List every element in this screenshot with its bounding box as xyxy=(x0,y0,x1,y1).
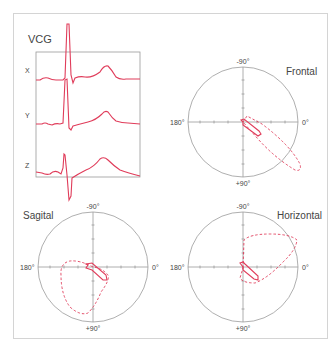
horizontal-top-label: -90° xyxy=(237,203,250,210)
horizontal-right-label: 0° xyxy=(302,264,309,271)
sagittal-bottom-label: +90° xyxy=(86,325,101,332)
frontal-loop-plot xyxy=(188,67,300,177)
sagittal-title: Sagital xyxy=(23,210,54,221)
frontal-right-label: 0° xyxy=(302,119,309,126)
horizontal-loop-plot xyxy=(188,212,298,322)
horizontal-title: Horizontal xyxy=(277,210,322,221)
sagittal-left-label: 180° xyxy=(20,264,35,271)
sagittal-loop-plot xyxy=(38,212,148,322)
frontal-bottom-label: +90° xyxy=(236,180,251,187)
lead-x-label: X xyxy=(25,67,30,74)
horizontal-left-label: 180° xyxy=(170,264,185,271)
vcg-title: VCG xyxy=(28,33,52,45)
sagittal-top-label: -90° xyxy=(87,203,100,210)
frontal-left-label: 180° xyxy=(170,119,185,126)
frontal-title: Frontal xyxy=(286,66,317,77)
lead-z-label: Z xyxy=(25,162,30,169)
lead-y-label: Y xyxy=(25,112,30,119)
frontal-top-label: -90° xyxy=(237,58,250,65)
sagittal-right-label: 0° xyxy=(152,264,159,271)
vcg-leads-box xyxy=(36,52,140,177)
lead-y-trace xyxy=(36,79,140,130)
vcg-figure: VCG X Y Z -90° +90° 180° 0° Frontal xyxy=(0,0,336,347)
horizontal-bottom-label: +90° xyxy=(236,325,251,332)
